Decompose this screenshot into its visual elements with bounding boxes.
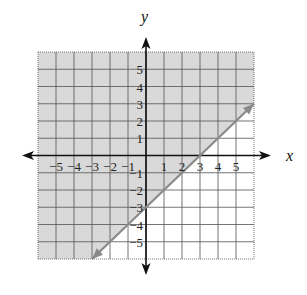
y-tick-label: 5: [137, 62, 144, 77]
y-tick-label: 1: [137, 131, 144, 146]
x-tick-label: 4: [215, 159, 222, 174]
x-tick-label: −4: [67, 159, 81, 174]
x-tick-label: −5: [49, 159, 63, 174]
inequality-graph: −5−4−3−2−11234554321−1−2−3−4−5 x y: [0, 0, 307, 295]
x-tick-label: −2: [103, 159, 117, 174]
y-tick-label: −4: [129, 218, 143, 233]
y-tick-label: −2: [129, 183, 143, 198]
y-tick-label: 2: [137, 114, 144, 129]
x-tick-label: 5: [233, 159, 240, 174]
x-tick-label: 2: [179, 159, 186, 174]
y-tick-label: −5: [129, 235, 143, 250]
x-tick-label: 1: [161, 159, 168, 174]
y-tick-label: 3: [137, 97, 144, 112]
y-tick-label: −1: [129, 166, 143, 181]
x-axis-label: x: [285, 147, 293, 164]
x-tick-label: −3: [85, 159, 99, 174]
y-axis-label: y: [139, 8, 149, 26]
y-tick-label: 4: [137, 80, 144, 95]
y-tick-label: −3: [129, 200, 143, 215]
x-tick-label: 3: [197, 159, 204, 174]
